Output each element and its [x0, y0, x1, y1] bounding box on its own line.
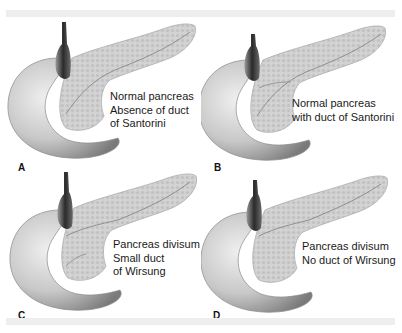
caption-line: of Wirsung — [113, 265, 200, 279]
caption-d: Pancreas divisum No duct of Wirsung — [302, 240, 396, 267]
caption-a: Normal pancreas Absence of duct of Santo… — [110, 90, 194, 131]
bottom-gray-band — [6, 318, 395, 325]
caption-line: Small duct — [113, 252, 200, 266]
caption-line: Absence of duct — [110, 104, 194, 118]
caption-line: No duct of Wirsung — [302, 254, 396, 268]
caption-c: Pancreas divisum Small duct of Wirsung — [113, 238, 200, 279]
caption-line: Pancreas divisum — [113, 238, 200, 252]
panel-a: Normal pancreas Absence of duct of Santo… — [0, 18, 201, 166]
caption-line: of Santorini — [110, 117, 194, 131]
caption-b: Normal pancreas with duct of Santorini — [292, 97, 394, 124]
panel-c: Pancreas divisum Small duct of Wirsung C — [0, 170, 201, 318]
caption-line: Pancreas divisum — [302, 240, 396, 254]
panel-b: Normal pancreas with duct of Santorini B — [201, 18, 402, 166]
pancreas-illustration-b — [201, 18, 402, 166]
caption-line: with duct of Santorini — [292, 111, 394, 125]
top-gray-band — [6, 10, 395, 17]
panel-d: Pancreas divisum No duct of Wirsung D — [201, 170, 402, 318]
caption-line: Normal pancreas — [292, 97, 394, 111]
caption-line: Normal pancreas — [110, 90, 194, 104]
